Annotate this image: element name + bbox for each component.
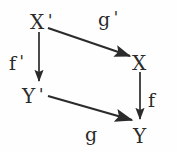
morphism-g-base: g bbox=[85, 123, 98, 145]
vertex-x-prime-base: X bbox=[30, 10, 45, 34]
vertex-y-base: Y bbox=[133, 124, 147, 148]
vertex-x-base: X bbox=[132, 51, 147, 75]
morphism-f-prime-base: f bbox=[9, 52, 17, 74]
morphism-g-prime-base: g bbox=[98, 8, 111, 30]
commutative-diagram-figure: X' X Y' Y f' g' f g bbox=[0, 0, 177, 153]
arrow-g bbox=[48, 96, 132, 120]
morphism-f-prime-mark: ' bbox=[17, 53, 26, 71]
morphism-g-prime-mark: ' bbox=[111, 9, 120, 27]
vertex-y-prime-base: Y bbox=[22, 84, 36, 108]
vertex-x: X bbox=[132, 53, 147, 73]
morphism-label-f-prime: f' bbox=[9, 54, 26, 73]
vertex-y: Y bbox=[133, 126, 147, 146]
morphism-label-g-prime: g' bbox=[98, 10, 121, 29]
morphism-label-f: f bbox=[148, 91, 156, 110]
vertex-x-prime: X' bbox=[30, 12, 55, 32]
vertex-y-prime-mark: ' bbox=[36, 85, 46, 104]
arrow-g-prime bbox=[48, 28, 130, 56]
morphism-f-base: f bbox=[148, 89, 156, 111]
vertex-x-prime-mark: ' bbox=[45, 11, 55, 30]
morphism-label-g: g bbox=[85, 125, 98, 144]
vertex-y-prime: Y' bbox=[22, 86, 46, 106]
